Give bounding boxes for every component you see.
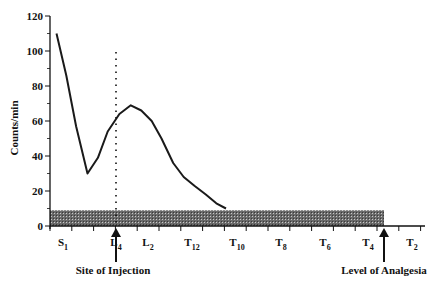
y-tick-label: 40 (32, 150, 44, 162)
x-tick-label: T10 (229, 236, 244, 252)
x-tick-label: T6 (319, 236, 330, 252)
x-tick-label: T12 (184, 236, 199, 252)
x-tick-label: T4 (362, 236, 373, 252)
x-tick-label: S1 (58, 236, 68, 252)
x-ticks: S1L4L2T12T10T8T6T4T2 (50, 226, 421, 252)
x-tick-label: T2 (406, 236, 417, 252)
x-tick-label: L2 (142, 236, 153, 252)
y-tick-label: 0 (38, 220, 44, 232)
y-axis-title: Counts/min (8, 100, 20, 155)
y-tick-label: 100 (27, 45, 44, 57)
injection-arrow-head (111, 228, 121, 237)
y-tick-label: 20 (32, 185, 44, 197)
x-tick-label: T8 (275, 236, 286, 252)
analgesia-bar (50, 210, 384, 226)
analgesia-arrow-head (379, 228, 389, 237)
analgesia-band (50, 210, 384, 226)
axes (50, 16, 425, 229)
chart: 020406080100120 S1L4L2T12T10T8T6T4T2 Sit… (0, 0, 439, 288)
level-of-analgesia-label: Level of Analgesia (341, 264, 427, 276)
y-tick-label: 80 (32, 80, 44, 92)
site-of-injection-label: Site of Injection (76, 264, 151, 276)
annotations: Site of InjectionLevel of Analgesia (76, 52, 428, 276)
y-ticks: 020406080100120 (27, 10, 51, 232)
y-tick-label: 120 (27, 10, 44, 22)
y-tick-label: 60 (32, 115, 44, 127)
data-line (57, 34, 227, 209)
counts-line (57, 34, 227, 209)
